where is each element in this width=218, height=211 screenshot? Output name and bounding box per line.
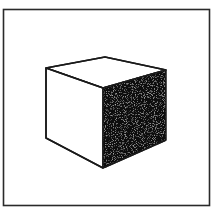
cube-drawing	[0, 0, 218, 211]
